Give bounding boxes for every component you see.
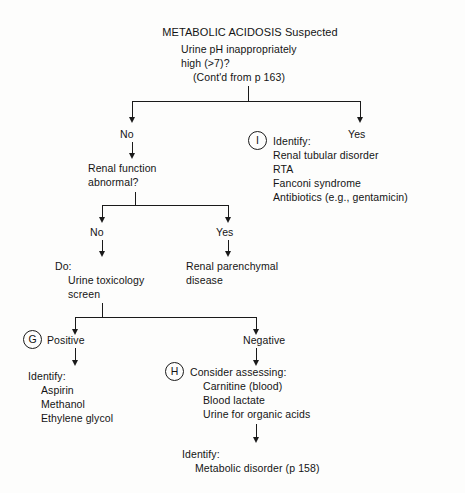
connector-bar-1 <box>132 101 361 102</box>
connector-drop-1-right <box>360 101 361 118</box>
node-do-item1: Urine toxicology <box>68 274 144 288</box>
connector-drop-1-left <box>132 101 133 118</box>
marker-h-item-2: Urine for organic acids <box>203 408 310 422</box>
node-renal-line1: Renal function <box>88 162 157 176</box>
page-title: METABOLIC ACIDOSIS Suspected <box>145 26 355 40</box>
connector-stem-2 <box>135 192 136 205</box>
branch2-yes-label: Yes <box>216 226 233 240</box>
marker-h-item-1: Blood lactate <box>203 394 265 408</box>
marker-i-item-2: Fanconi syndrome <box>273 177 361 191</box>
connector-stem-3 <box>102 303 103 317</box>
arrowhead-h-to-final <box>253 437 259 443</box>
node-final-heading: Identify: <box>182 448 220 462</box>
marker-g-item-0: Aspirin <box>41 384 74 398</box>
connector-h-to-final <box>256 424 257 438</box>
branch3-negative-label: Negative <box>243 334 285 348</box>
marker-g-circle: G <box>23 330 42 349</box>
marker-i-circle: I <box>248 131 267 150</box>
marker-i-item-1: RTA <box>273 163 293 177</box>
marker-h-circle: H <box>165 362 184 381</box>
marker-i-item-0: Renal tubular disorder <box>273 149 379 163</box>
node-renal-line2: abnormal? <box>88 176 139 190</box>
arrowhead-1-left <box>129 117 135 123</box>
marker-i-item-3: Antibiotics (e.g., gentamicin) <box>273 191 408 205</box>
marker-i-heading: Identify: <box>273 135 311 149</box>
arrowhead-yes2-down <box>225 251 231 257</box>
branch1-yes-label: Yes <box>348 128 365 142</box>
node-do-heading: Do: <box>55 260 72 274</box>
header-question-line1: Urine pH inappropriately <box>181 43 297 57</box>
flowchart-page: METABOLIC ACIDOSIS Suspected Urine pH in… <box>0 0 465 493</box>
marker-g-item-1: Methanol <box>41 398 85 412</box>
marker-g-heading: Identify: <box>28 370 66 384</box>
node-renal-parenchymal-line1: Renal parenchymal <box>186 260 278 274</box>
marker-g-item-2: Ethylene glycol <box>41 412 113 426</box>
arrowhead-2-right <box>225 217 231 223</box>
arrowhead-no-to-renal <box>129 153 135 159</box>
branch1-no-label: No <box>120 128 134 142</box>
node-do-item2: screen <box>68 288 100 302</box>
arrowhead-no2-down <box>99 251 105 257</box>
connector-bar-3 <box>75 317 256 318</box>
connector-stem-1 <box>248 86 249 101</box>
marker-h-heading: Consider assessing: <box>190 366 286 380</box>
arrowhead-1-right <box>357 117 363 123</box>
header-continuation: (Cont'd from p 163) <box>193 71 285 85</box>
node-final-item: Metabolic disorder (p 158) <box>195 462 320 476</box>
connector-bar-2 <box>102 205 229 206</box>
arrowhead-2-left <box>99 217 105 223</box>
marker-h-item-0: Carnitine (blood) <box>203 380 282 394</box>
branch3-positive-label: Positive <box>47 334 85 348</box>
arrowhead-positive-down <box>72 360 78 366</box>
node-renal-parenchymal-line2: disease <box>186 274 223 288</box>
header-question-line2: high (>7)? <box>181 57 230 71</box>
branch2-no-label: No <box>90 226 104 240</box>
